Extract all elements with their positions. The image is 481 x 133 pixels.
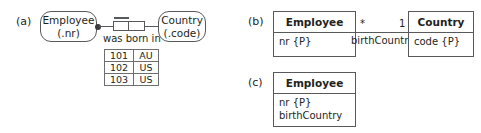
uml-class-employee-b-attributes: nr {P} — [274, 33, 355, 56]
uml-target-multiplicity: 1 — [399, 18, 405, 29]
uml-association-role-name: birthCountry — [351, 35, 414, 46]
orm-entity-country-refmode: (.code) — [164, 27, 201, 39]
uml-source-multiplicity: * — [360, 18, 365, 29]
orm-entity-employee-name: Employee — [42, 14, 94, 26]
orm-uniqueness-constraint-bar — [114, 17, 129, 19]
orm-fact-type — [113, 21, 145, 31]
cell-nr: 103 — [105, 74, 134, 86]
uml-attribute: birthCountry — [279, 110, 350, 123]
cell-nr: 102 — [105, 62, 134, 74]
uml-class-employee-c-attributes: nr {P} birthCountry — [274, 94, 355, 126]
orm-role-box-employee — [114, 22, 129, 30]
uml-class-employee-c-name: Employee — [274, 73, 355, 94]
orm-role-box-country — [129, 22, 144, 30]
uml-class-country-b: Country code {P} — [408, 11, 474, 57]
uml-attribute: code {P} — [414, 36, 468, 49]
orm-entity-country-name: Country — [161, 14, 203, 26]
part-label-c: (c) — [248, 77, 263, 88]
table-row: 102 US — [105, 62, 159, 74]
orm-entity-employee-refmode: (.nr) — [57, 27, 80, 39]
orm-sample-population-table: 101 AU 102 US 103 US — [104, 49, 159, 86]
orm-sample-population-body: 101 AU 102 US 103 US — [105, 50, 159, 86]
orm-entity-country: Country (.code) — [158, 11, 206, 42]
uml-attribute: nr {P} — [279, 97, 350, 110]
uml-class-employee-b: Employee nr {P} — [273, 11, 356, 57]
uml-class-employee-c: Employee nr {P} birthCountry — [273, 72, 356, 127]
table-row: 103 US — [105, 74, 159, 86]
part-label-b: (b) — [248, 16, 264, 27]
part-label-a: (a) — [16, 16, 31, 27]
uml-class-employee-b-name: Employee — [274, 12, 355, 33]
orm-connector-line-right — [145, 26, 159, 27]
cell-code: US — [134, 62, 159, 74]
uml-association-line — [356, 32, 408, 33]
uml-attribute: nr {P} — [279, 36, 350, 49]
diagram-canvas: (a) Employee (.nr) was born in Country (… — [0, 0, 481, 133]
table-row: 101 AU — [105, 50, 159, 62]
orm-predicate-label: was born in — [103, 33, 161, 44]
uml-class-country-b-attributes: code {P} — [409, 33, 473, 56]
cell-code: AU — [134, 50, 159, 62]
cell-nr: 101 — [105, 50, 134, 62]
orm-entity-employee: Employee (.nr) — [40, 11, 97, 42]
cell-code: US — [134, 74, 159, 86]
orm-connector-line-left — [99, 26, 113, 27]
uml-class-country-b-name: Country — [409, 12, 473, 33]
